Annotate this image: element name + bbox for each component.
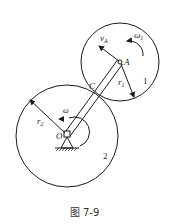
- omega-arrowhead-icon: [58, 116, 64, 122]
- figure-caption: 图 7-9: [0, 204, 169, 219]
- label-r1: r1: [118, 77, 125, 88]
- omega-rotation-arrow: [69, 117, 90, 146]
- label-omega: ω: [63, 106, 69, 115]
- omega1-rotation-arrow: [127, 41, 143, 56]
- label-a: A: [123, 57, 130, 67]
- crank-oa: [65, 60, 123, 137]
- label-c: C: [89, 81, 96, 91]
- label-omega1: ω1: [134, 30, 143, 41]
- radius-r1-arrow: [121, 64, 134, 97]
- velocity-va-arrow: [99, 46, 119, 61]
- label-va: vA: [100, 33, 108, 44]
- label-gear-2: 2: [103, 151, 108, 161]
- radius-r2-arrow: [30, 100, 65, 133]
- label-r2: r2: [37, 116, 44, 127]
- pivot-o: [64, 131, 70, 137]
- gear-crank-diagram: vA ω1 A r1 1 C r2 ω O 2: [0, 0, 169, 224]
- label-o: O: [56, 131, 63, 141]
- label-gear-1: 1: [143, 76, 148, 86]
